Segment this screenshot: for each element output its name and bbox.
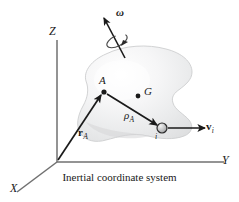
v-glyph: v — [206, 120, 212, 132]
particle-i-label: i — [155, 133, 157, 141]
vector-rho-a-label: ρA — [124, 110, 134, 121]
rho-glyph: ρ — [124, 109, 129, 121]
omega-spin-arrowhead — [121, 40, 128, 46]
rho-subscript: A — [130, 115, 135, 124]
particle-i-marker — [157, 123, 167, 133]
y-axis-label: Y — [222, 154, 229, 166]
inertial-coordinate-system-figure: Z Y X A G i ω ρA rA vi Inertial coordina… — [0, 0, 239, 202]
point-g-dot — [136, 94, 141, 99]
vector-vi-label: vi — [206, 121, 214, 132]
x-axis-label: X — [10, 182, 17, 194]
rigid-body-blob — [78, 46, 192, 141]
point-a-label: A — [99, 75, 106, 86]
z-axis-label: Z — [49, 25, 56, 37]
point-a-dot — [101, 89, 106, 94]
v-subscript: i — [212, 126, 214, 135]
point-g-label: G — [144, 86, 152, 97]
vector-ra-label: rA — [78, 127, 87, 138]
figure-caption: Inertial coordinate system — [0, 172, 239, 183]
omega-label: ω — [116, 7, 124, 18]
r-subscript: A — [83, 132, 88, 141]
